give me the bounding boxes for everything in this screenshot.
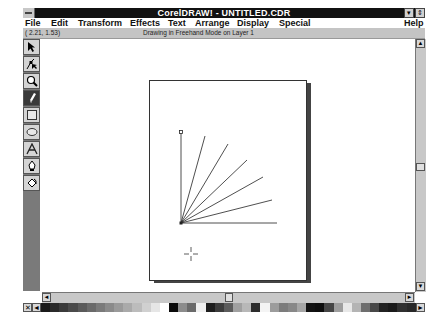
color-swatch[interactable]	[41, 303, 50, 312]
fill-tool[interactable]	[23, 175, 40, 191]
drawing-canvas[interactable]	[42, 39, 412, 292]
menu-help[interactable]: Help	[404, 18, 424, 28]
color-swatch[interactable]	[215, 303, 224, 312]
vertical-scroll-thumb[interactable]	[416, 163, 425, 171]
shape-node-icon	[26, 58, 38, 70]
zoom-tool[interactable]	[23, 73, 40, 89]
status-bar: ( 2.21, 1.53) Drawing in Freehand Mode o…	[23, 28, 425, 39]
color-swatch[interactable]	[206, 303, 215, 312]
text-a-icon	[26, 143, 38, 155]
rectangle-tool[interactable]	[23, 107, 40, 123]
color-swatch[interactable]	[68, 303, 77, 312]
color-swatch[interactable]	[279, 303, 288, 312]
horizontal-scroll-thumb[interactable]	[225, 293, 233, 302]
color-swatch[interactable]	[352, 303, 361, 312]
pencil-icon	[26, 92, 38, 104]
scroll-down-button[interactable]: ▼	[416, 282, 425, 291]
color-swatch[interactable]	[233, 303, 242, 312]
color-swatch[interactable]	[242, 303, 251, 312]
color-swatch[interactable]	[315, 303, 324, 312]
color-swatch[interactable]	[288, 303, 297, 312]
pick-tool[interactable]	[23, 39, 40, 55]
menu-display[interactable]: Display	[237, 18, 269, 28]
color-swatch[interactable]	[105, 303, 114, 312]
menu-arrange[interactable]: Arrange	[195, 18, 230, 28]
pencil-tool[interactable]	[23, 90, 40, 106]
menu-file[interactable]: File	[25, 18, 41, 28]
color-swatch[interactable]	[388, 303, 397, 312]
color-swatch[interactable]	[87, 303, 96, 312]
rectangle-icon	[26, 109, 38, 121]
palette-scroll-left-button[interactable]: ◄	[32, 303, 41, 312]
menu-text[interactable]: Text	[168, 18, 186, 28]
color-palette: ✕ ◄ ►	[23, 303, 425, 312]
color-swatch[interactable]	[379, 303, 388, 312]
color-swatch[interactable]	[343, 303, 352, 312]
color-swatch[interactable]	[370, 303, 379, 312]
minimize-button[interactable]: ▾	[404, 8, 414, 18]
text-tool[interactable]	[23, 141, 40, 157]
menu-edit[interactable]: Edit	[51, 18, 68, 28]
color-swatch[interactable]	[334, 303, 343, 312]
color-swatch[interactable]	[196, 303, 205, 312]
color-swatch[interactable]	[132, 303, 141, 312]
color-swatch[interactable]	[260, 303, 269, 312]
palette-swatches	[41, 303, 416, 312]
palette-scroll-right-button[interactable]: ►	[416, 303, 425, 312]
printable-page	[150, 81, 307, 281]
menu-transform[interactable]: Transform	[78, 18, 122, 28]
color-swatch[interactable]	[187, 303, 196, 312]
color-swatch[interactable]	[59, 303, 68, 312]
vertical-scrollbar[interactable]: ▲ ▼	[415, 39, 426, 292]
magnifier-icon	[26, 75, 38, 87]
scroll-right-button[interactable]: ►	[405, 293, 414, 302]
toolbox	[23, 39, 40, 291]
color-swatch[interactable]	[169, 303, 178, 312]
color-swatch[interactable]	[297, 303, 306, 312]
color-swatch[interactable]	[251, 303, 260, 312]
color-swatch[interactable]	[361, 303, 370, 312]
coreldraw-window: CorelDRAW! - UNTITLED.CDR ▾ ⇕ File Edit …	[23, 8, 425, 313]
ellipse-tool[interactable]	[23, 124, 40, 140]
arrow-icon	[26, 41, 37, 53]
origin-node[interactable]	[180, 222, 183, 225]
ellipse-icon	[26, 126, 38, 138]
scroll-up-button[interactable]: ▲	[416, 39, 425, 48]
color-swatch[interactable]	[123, 303, 132, 312]
paint-bucket-icon	[26, 177, 38, 189]
scroll-left-button[interactable]: ◄	[42, 293, 51, 302]
color-swatch[interactable]	[270, 303, 279, 312]
title-bar[interactable]: CorelDRAW! - UNTITLED.CDR ▾ ⇕	[23, 8, 425, 18]
color-swatch[interactable]	[178, 303, 187, 312]
restore-button[interactable]: ⇕	[415, 8, 425, 18]
node-handle[interactable]	[180, 131, 183, 134]
menu-bar: File Edit Transform Effects Text Arrange…	[23, 18, 425, 28]
drawing-area	[42, 39, 412, 292]
horizontal-scrollbar[interactable]: ◄ ►	[42, 292, 415, 303]
menu-effects[interactable]: Effects	[130, 18, 160, 28]
color-swatch[interactable]	[114, 303, 123, 312]
window-title: CorelDRAW! - UNTITLED.CDR	[23, 8, 425, 18]
color-swatch[interactable]	[78, 303, 87, 312]
menu-special[interactable]: Special	[279, 18, 311, 28]
shape-tool[interactable]	[23, 56, 40, 72]
color-swatch[interactable]	[50, 303, 59, 312]
color-swatch[interactable]	[324, 303, 333, 312]
cursor-coordinates: ( 2.21, 1.53)	[25, 28, 60, 38]
status-message: Drawing in Freehand Mode on Layer 1	[143, 28, 254, 38]
pen-nib-icon	[26, 160, 38, 172]
color-swatch[interactable]	[96, 303, 105, 312]
color-swatch[interactable]	[397, 303, 406, 312]
outline-tool[interactable]	[23, 158, 40, 174]
color-swatch[interactable]	[142, 303, 151, 312]
color-swatch[interactable]	[407, 303, 416, 312]
color-swatch[interactable]	[224, 303, 233, 312]
no-color-button[interactable]: ✕	[23, 303, 32, 312]
color-swatch[interactable]	[151, 303, 160, 312]
color-swatch[interactable]	[160, 303, 169, 312]
color-swatch[interactable]	[306, 303, 315, 312]
